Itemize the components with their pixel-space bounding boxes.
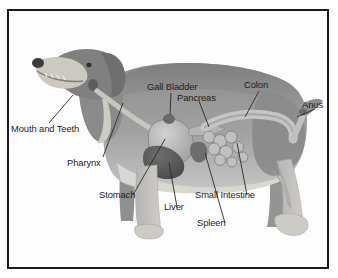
hind-paw-near — [275, 214, 308, 236]
label-pancreas: Pancreas — [177, 92, 216, 103]
label-gall-bladder: Gall Bladder — [147, 81, 197, 92]
leader-mouth-and-teeth — [49, 95, 73, 123]
dog-anatomy-illustration: Mouth and Teeth Pharynx Gall Bladder Pan… — [9, 11, 327, 267]
label-anus: Anus — [302, 99, 323, 110]
label-colon: Colon — [244, 79, 268, 90]
dog-illustration-svg — [9, 11, 327, 267]
gall-bladder-organ — [163, 114, 175, 124]
label-spleen: Spleen — [197, 217, 226, 228]
label-liver: Liver — [164, 201, 184, 212]
anatomy-figure: Mouth and Teeth Pharynx Gall Bladder Pan… — [0, 0, 338, 278]
front-paw-near — [135, 224, 164, 239]
figure-frame: Mouth and Teeth Pharynx Gall Bladder Pan… — [7, 9, 329, 269]
label-mouth-and-teeth: Mouth and Teeth — [11, 123, 79, 134]
label-pharynx: Pharynx — [67, 157, 101, 168]
label-stomach: Stomach — [99, 189, 135, 200]
dog-eye — [86, 63, 91, 67]
label-small-intestine: Small Intestine — [195, 189, 255, 200]
dog-nose — [32, 58, 44, 68]
